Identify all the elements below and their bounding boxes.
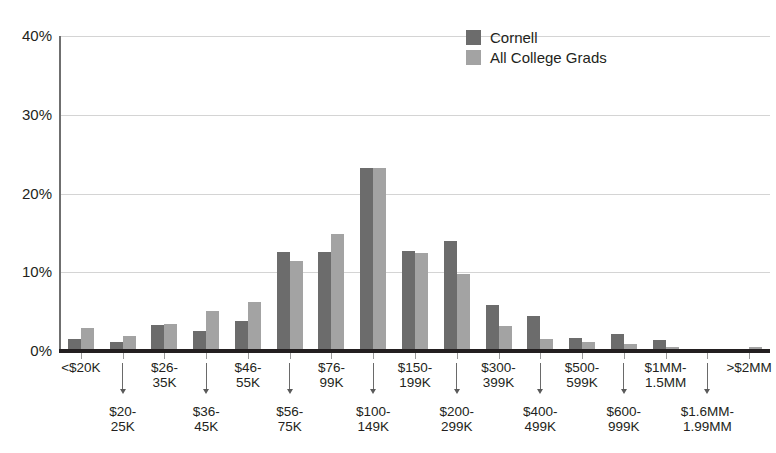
x-axis-tick bbox=[415, 353, 416, 359]
bar-all-college-grads bbox=[206, 311, 219, 351]
x-axis-label: $46- 55K bbox=[215, 360, 281, 390]
bar-all-college-grads bbox=[81, 328, 94, 351]
x-axis-leader-arrow-icon bbox=[534, 363, 546, 394]
bar-cornell bbox=[277, 252, 290, 351]
x-axis-label: $1.6MM- 1.99MM bbox=[674, 404, 740, 434]
bar-cornell bbox=[444, 241, 457, 351]
x-axis-label: $500- 599K bbox=[549, 360, 615, 390]
x-axis-tick bbox=[582, 353, 583, 359]
bar-cornell bbox=[486, 305, 499, 351]
bar-group bbox=[694, 36, 720, 351]
y-axis-tick-0: 0% bbox=[0, 343, 52, 358]
bar-cornell bbox=[151, 325, 164, 351]
bar-group bbox=[318, 36, 344, 351]
legend-swatch-cornell bbox=[466, 30, 481, 45]
x-axis-tick bbox=[457, 353, 458, 359]
x-axis-leader-arrow-icon bbox=[618, 363, 630, 394]
bar-group bbox=[151, 36, 177, 351]
bar-all-college-grads bbox=[290, 261, 303, 351]
bar-all-college-grads bbox=[331, 234, 344, 351]
x-axis-label: >$2MM bbox=[716, 360, 776, 375]
x-axis-leader-arrow-icon bbox=[284, 363, 296, 394]
x-axis-label: $600- 999K bbox=[591, 404, 657, 434]
bar-all-college-grads bbox=[373, 168, 386, 351]
legend-item-all-college-grads: All College Grads bbox=[466, 50, 607, 65]
bar-group bbox=[402, 36, 428, 351]
bar-all-college-grads bbox=[164, 324, 177, 351]
bar-cornell bbox=[527, 316, 540, 351]
x-axis-label: $26- 35K bbox=[131, 360, 197, 390]
bar-group bbox=[569, 36, 595, 351]
x-axis-tick bbox=[499, 353, 500, 359]
bar-all-college-grads bbox=[499, 326, 512, 351]
legend-swatch-all-college-grads bbox=[466, 50, 481, 65]
x-axis-tick bbox=[331, 353, 332, 359]
bar-group bbox=[611, 36, 637, 351]
x-axis-label: $400- 499K bbox=[507, 404, 573, 434]
x-axis-tick bbox=[666, 353, 667, 359]
legend-item-cornell: Cornell bbox=[466, 30, 607, 45]
bar-cornell bbox=[402, 251, 415, 351]
x-axis-label: <$20K bbox=[48, 360, 114, 375]
bar-cornell bbox=[235, 321, 248, 351]
bar-group bbox=[110, 36, 136, 351]
x-axis-tick bbox=[81, 353, 82, 359]
x-axis-tick bbox=[248, 353, 249, 359]
x-axis-tick bbox=[540, 353, 541, 359]
bar-group bbox=[235, 36, 261, 351]
y-axis-tick-20: 20% bbox=[0, 186, 52, 201]
bar-cornell bbox=[318, 252, 331, 351]
bar-group bbox=[360, 36, 386, 351]
x-axis-tick bbox=[624, 353, 625, 359]
x-axis-tick bbox=[206, 353, 207, 359]
x-axis-label: $150- 199K bbox=[382, 360, 448, 390]
bar-all-college-grads bbox=[415, 253, 428, 351]
x-axis-leader-arrow-icon bbox=[367, 363, 379, 394]
x-axis-tick bbox=[749, 353, 750, 359]
chart-legend: Cornell All College Grads bbox=[466, 30, 607, 65]
x-axis-leader-arrow-icon bbox=[200, 363, 212, 394]
y-axis-tick-40: 40% bbox=[0, 28, 52, 43]
y-axis-tick-10: 10% bbox=[0, 264, 52, 279]
x-axis-tick bbox=[373, 353, 374, 359]
bar-group bbox=[736, 36, 762, 351]
bar-group bbox=[277, 36, 303, 351]
bar-group bbox=[193, 36, 219, 351]
bar-group bbox=[444, 36, 470, 351]
legend-label-all-college-grads: All College Grads bbox=[490, 50, 607, 65]
x-axis-tick bbox=[707, 353, 708, 359]
bar-group bbox=[68, 36, 94, 351]
x-axis-label: $56- 75K bbox=[257, 404, 323, 434]
x-axis-leader-arrow-icon bbox=[117, 363, 129, 394]
y-axis-tick-30: 30% bbox=[0, 107, 52, 122]
bar-group bbox=[653, 36, 679, 351]
bar-group bbox=[527, 36, 553, 351]
x-axis-tick bbox=[123, 353, 124, 359]
bar-all-college-grads bbox=[248, 302, 261, 351]
x-axis-labels: <$20K$20- 25K$26- 35K$36- 45K$46- 55K$56… bbox=[60, 353, 770, 453]
bar-group bbox=[486, 36, 512, 351]
x-axis-tick bbox=[164, 353, 165, 359]
x-axis-label: $36- 45K bbox=[173, 404, 239, 434]
legend-label-cornell: Cornell bbox=[490, 30, 538, 45]
x-axis-label: $76- 99K bbox=[298, 360, 364, 390]
x-axis-label: $100- 149K bbox=[340, 404, 406, 434]
income-distribution-bar-chart: 0%10%20%30%40% Cornell All College Grads… bbox=[0, 0, 776, 453]
bar-all-college-grads bbox=[457, 274, 470, 351]
x-axis-leader-arrow-icon bbox=[701, 363, 713, 394]
x-axis-label: $200- 299K bbox=[424, 404, 490, 434]
bar-cornell bbox=[360, 168, 373, 351]
x-axis-label: $20- 25K bbox=[90, 404, 156, 434]
x-axis-label: $300- 399K bbox=[466, 360, 532, 390]
x-axis-leader-arrow-icon bbox=[451, 363, 463, 394]
x-axis-tick bbox=[290, 353, 291, 359]
bars-layer bbox=[60, 36, 770, 351]
x-axis-label: $1MM- 1.5MM bbox=[633, 360, 699, 390]
